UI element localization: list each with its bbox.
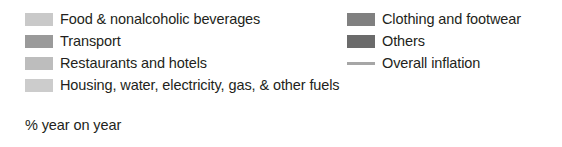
legend-item-housing-water-electricity-gas-other-fuels[interactable]: Housing, water, electricity, gas, & othe…: [25, 74, 340, 96]
legend-swatch-transport: [25, 35, 53, 48]
legend-label-others: Others: [382, 34, 425, 49]
legend-item-restaurants-and-hotels[interactable]: Restaurants and hotels: [25, 52, 340, 74]
legend-item-food-nonalcoholic-beverages[interactable]: Food & nonalcoholic beverages: [25, 8, 340, 30]
legend-swatch-housing-water-electricity-gas-other-fuels: [25, 79, 53, 92]
legend-swatch-others: [347, 35, 375, 48]
legend-label-transport: Transport: [60, 34, 121, 49]
legend-line-marker-overall-inflation: [347, 57, 375, 70]
axis-unit-note: % year on year: [25, 118, 121, 133]
legend-label-overall-inflation: Overall inflation: [382, 56, 480, 71]
legend-item-others[interactable]: Others: [347, 30, 521, 52]
legend-label-food-nonalcoholic-beverages: Food & nonalcoholic beverages: [60, 12, 260, 27]
legend-item-overall-inflation[interactable]: Overall inflation: [347, 52, 521, 74]
legend-item-clothing-and-footwear[interactable]: Clothing and footwear: [347, 8, 521, 30]
legend-swatch-food-nonalcoholic-beverages: [25, 13, 53, 26]
legend-label-clothing-and-footwear: Clothing and footwear: [382, 12, 521, 27]
legend-label-restaurants-and-hotels: Restaurants and hotels: [60, 56, 207, 71]
legend-column-right: Clothing and footwear Others Overall inf…: [347, 8, 521, 74]
legend-label-housing-water-electricity-gas-other-fuels: Housing, water, electricity, gas, & othe…: [60, 78, 340, 93]
legend-swatch-restaurants-and-hotels: [25, 57, 53, 70]
legend-swatch-clothing-and-footwear: [347, 13, 375, 26]
legend-column-left: Food & nonalcoholic beverages Transport …: [25, 8, 340, 96]
legend-item-transport[interactable]: Transport: [25, 30, 340, 52]
chart-legend: Food & nonalcoholic beverages Transport …: [0, 0, 562, 147]
